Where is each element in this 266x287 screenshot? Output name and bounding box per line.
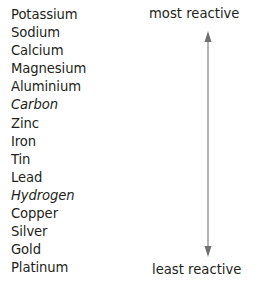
element-gold: Gold	[11, 241, 86, 259]
double-headed-vertical-arrow-icon	[200, 28, 216, 260]
most-reactive-label: most reactive	[149, 6, 239, 21]
element-potassium: Potassium	[11, 6, 86, 24]
element-silver: Silver	[11, 223, 86, 241]
element-zinc: Zinc	[11, 115, 86, 133]
element-hydrogen: Hydrogen	[11, 187, 86, 205]
element-carbon: Carbon	[11, 96, 86, 114]
element-magnesium: Magnesium	[11, 60, 86, 78]
element-tin: Tin	[11, 151, 86, 169]
element-iron: Iron	[11, 133, 86, 151]
element-list: Potassium Sodium Calcium Magnesium Alumi…	[11, 6, 86, 277]
element-sodium: Sodium	[11, 24, 86, 42]
element-calcium: Calcium	[11, 42, 86, 60]
element-lead: Lead	[11, 169, 86, 187]
element-copper: Copper	[11, 205, 86, 223]
least-reactive-label: least reactive	[152, 262, 241, 277]
element-aluminium: Aluminium	[11, 78, 86, 96]
element-platinum: Platinum	[11, 259, 86, 277]
